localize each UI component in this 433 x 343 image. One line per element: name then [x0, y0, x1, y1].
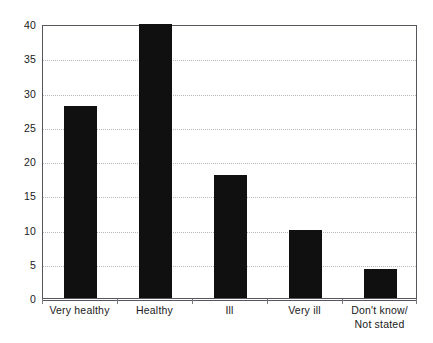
bar-chart: 0510152025303540 Very healthyHealthyIllV… [0, 0, 433, 343]
bar [289, 230, 322, 299]
plot-area [42, 25, 417, 299]
x-axis-label-line: Very healthy [49, 304, 109, 316]
bar [214, 175, 247, 298]
x-axis-label-line: Ill [225, 304, 233, 316]
bars-layer [43, 26, 416, 298]
x-axis-label-line: Not stated [342, 317, 417, 331]
x-axis-label: Very ill [267, 303, 342, 317]
y-tick-label-5: 5 [30, 259, 36, 271]
y-tick-label-25: 25 [24, 122, 36, 134]
y-tick-label-40: 40 [24, 19, 36, 31]
x-axis: Very healthyHealthyIllVery illDon't know… [42, 303, 417, 343]
y-tick-label-30: 30 [24, 88, 36, 100]
bar [64, 106, 97, 298]
x-axis-label-line: Healthy [136, 304, 173, 316]
x-axis-label-line: Very ill [288, 304, 321, 316]
bar [364, 269, 397, 298]
y-axis: 0510152025303540 [0, 25, 36, 299]
x-axis-label: Ill [192, 303, 267, 317]
x-axis-label: Don't know/Not stated [342, 303, 417, 331]
y-tick-label-15: 15 [24, 190, 36, 202]
y-tick-label-10: 10 [24, 225, 36, 237]
y-tick-label-35: 35 [24, 53, 36, 65]
x-axis-label: Healthy [117, 303, 192, 317]
y-tick-label-0: 0 [30, 293, 36, 305]
bar [139, 24, 172, 298]
x-axis-label: Very healthy [42, 303, 117, 317]
x-axis-label-line: Don't know/ [351, 304, 408, 316]
y-tick-label-20: 20 [24, 156, 36, 168]
